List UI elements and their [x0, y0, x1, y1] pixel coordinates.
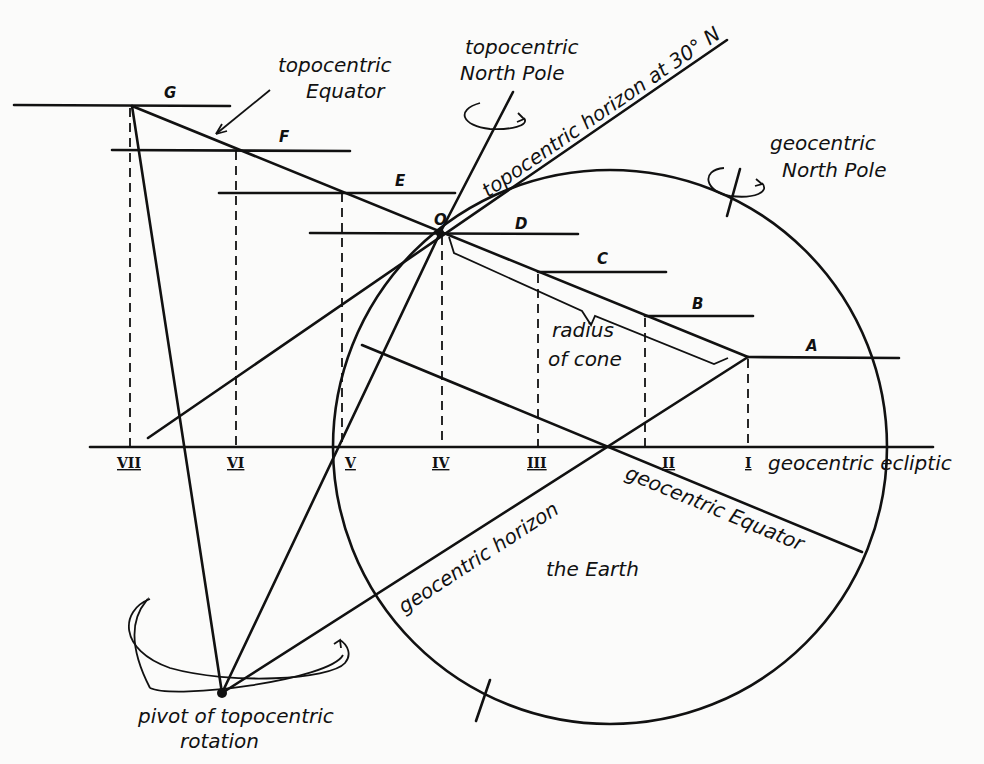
- point-label-origin: O: [434, 211, 447, 229]
- point-label-a: A: [805, 337, 818, 355]
- label-radius-of-cone-2: of cone: [548, 347, 622, 371]
- line-g: [14, 105, 230, 106]
- label-geocentric-north-pole-1: geocentric: [770, 131, 876, 155]
- tick-label-vii: VII: [116, 455, 141, 471]
- rotation-arrow-pivot: [129, 599, 349, 679]
- label-pivot-2: rotation: [180, 729, 259, 753]
- label-topocentric-north-pole-1: topocentric: [465, 35, 579, 59]
- pivot-to-g-line: [132, 106, 222, 693]
- arrowhead: [517, 113, 524, 122]
- point-label-d: D: [515, 215, 527, 233]
- label-radius-of-cone-1: radius: [552, 318, 614, 342]
- label-geocentric-horizon: geocentric horizon: [394, 497, 563, 619]
- tick-label-ii: II: [662, 455, 675, 471]
- tick-label-iii: III: [527, 455, 547, 471]
- tick-label-i: I: [745, 455, 752, 471]
- line-a: [748, 357, 899, 358]
- radius-of-cone-bracket: [449, 237, 728, 364]
- line-f: [112, 150, 350, 151]
- equator-pointer-arrow: [216, 90, 270, 134]
- point-label-g: G: [164, 84, 176, 102]
- label-geocentric-north-pole-2: North Pole: [782, 158, 886, 182]
- point-label-e: E: [395, 172, 406, 190]
- label-geocentric-ecliptic: geocentric ecliptic: [768, 451, 952, 475]
- arrowhead: [755, 179, 762, 186]
- tick-label-iv: IV: [432, 455, 451, 471]
- point-label-b: B: [692, 295, 703, 313]
- geocentric-equator-line: [362, 345, 862, 552]
- geocentric-south-pole-tick: [476, 680, 490, 721]
- diagram-canvas: topocentric Equator topocentric North Po…: [0, 0, 984, 764]
- label-topocentric-equator-2: Equator: [306, 79, 386, 103]
- label-topocentric-north-pole-2: North Pole: [460, 61, 564, 85]
- label-the-earth: the Earth: [546, 557, 639, 581]
- tick-label-vi: VI: [226, 455, 244, 471]
- point-label-c: C: [597, 250, 608, 268]
- geocentric-north-pole-tick: [727, 169, 740, 216]
- label-topocentric-equator-1: topocentric: [278, 53, 392, 77]
- tick-label-v: V: [344, 455, 357, 471]
- origin-point: [436, 229, 444, 237]
- arrowhead: [334, 640, 341, 648]
- label-pivot-1: pivot of topocentric: [137, 704, 334, 728]
- point-label-f: F: [279, 128, 290, 146]
